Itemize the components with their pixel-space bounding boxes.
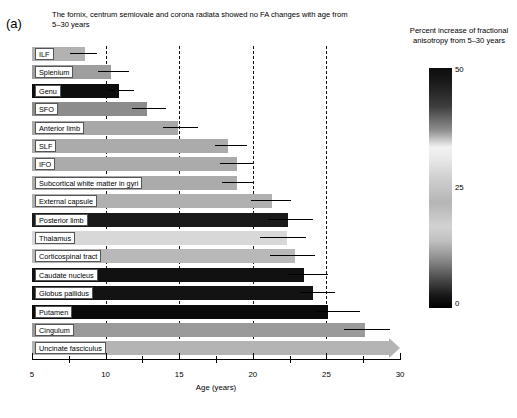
error-bar: [132, 108, 166, 109]
error-bar: [316, 311, 360, 312]
colorbar-title: Percent increase of fractional anisotrop…: [404, 26, 514, 46]
error-bar: [260, 237, 306, 238]
colorbar-label-max: 50: [455, 66, 464, 74]
tract-label: Caudate nucleus: [35, 269, 98, 281]
bar-row: ILF: [32, 47, 400, 61]
tract-label: SLF: [35, 140, 56, 152]
error-bar: [220, 163, 252, 164]
x-tick-label: 15: [175, 370, 184, 379]
x-tick-major: [106, 353, 107, 360]
x-tick-minor: [290, 356, 291, 363]
tract-label: External capsule: [35, 195, 97, 207]
bar-row: SLF: [32, 139, 400, 153]
x-axis-title: Age (years): [32, 383, 400, 392]
bar-row: Globus pallidus: [32, 286, 400, 300]
bar-row: Anterior limb: [32, 121, 400, 135]
bar-row: Cingulum: [32, 323, 400, 337]
bar-row: Corticospinal tract: [32, 249, 400, 263]
error-bar: [251, 200, 291, 201]
tract-label: Globus pallidus: [35, 287, 93, 299]
error-bar: [268, 219, 314, 220]
bar-row: Caudate nucleus: [32, 268, 400, 282]
tract-label: Subcortical white matter in gyri: [35, 177, 142, 189]
x-tick-minor: [363, 356, 364, 363]
bar: [32, 157, 237, 171]
bar-row: Genu: [32, 84, 400, 98]
bar-row: SFO: [32, 102, 400, 116]
x-axis: 51015202530: [32, 359, 400, 360]
tract-label: Corticospinal tract: [35, 250, 101, 262]
error-bar: [70, 53, 96, 54]
tract-label: SFO: [35, 103, 58, 115]
tract-label: Anterior limb: [35, 122, 84, 134]
tract-label: Cingulum: [35, 324, 74, 336]
panel-label: (a): [6, 16, 22, 31]
error-bar: [270, 255, 314, 256]
tract-label: Posterior limb: [35, 214, 88, 226]
tract-label: IFO: [35, 158, 55, 170]
colorbar-label-mid: 25: [455, 184, 464, 192]
bar-row: Subcortical white matter in gyri: [32, 176, 400, 190]
bar: [32, 305, 328, 319]
x-tick-major: [326, 353, 327, 360]
figure-panel-a: (a) The fornix, centrum semiovale and co…: [0, 0, 517, 418]
error-bar: [163, 127, 198, 128]
x-tick-label: 20: [248, 370, 257, 379]
error-bar: [222, 182, 253, 183]
x-tick-major: [32, 353, 33, 360]
x-tick-minor: [142, 356, 143, 363]
error-bar: [98, 71, 129, 72]
x-tick-minor: [69, 356, 70, 363]
tract-label: Genu: [35, 85, 61, 97]
bar: [32, 323, 365, 337]
bar-row: External capsule: [32, 194, 400, 208]
bar-row: Splenium: [32, 65, 400, 79]
colorbar-gradient: [429, 68, 452, 308]
colorbar-label-min: 0: [455, 300, 459, 308]
plot-area: ILFSpleniumGenuSFOAnterior limbSLFIFOSub…: [32, 46, 400, 359]
x-tick-label: 30: [396, 370, 405, 379]
tract-label: Thalamus: [35, 232, 75, 244]
bar: [32, 139, 228, 153]
error-bar: [109, 90, 134, 91]
error-bar: [215, 145, 247, 146]
x-tick-label: 10: [101, 370, 110, 379]
figure-caption: The fornix, centrum semiovale and corona…: [52, 10, 352, 30]
bar-row: Uncinate fasciculus: [32, 341, 400, 355]
x-tick-major: [253, 353, 254, 360]
bar-row: Posterior limb: [32, 213, 400, 227]
x-tick-major: [179, 353, 180, 360]
bar-row: IFO: [32, 157, 400, 171]
error-bar: [288, 274, 328, 275]
x-tick-label: 25: [322, 370, 331, 379]
tract-label: ILF: [35, 48, 54, 60]
bar-row: Putamen: [32, 305, 400, 319]
error-bar: [344, 329, 390, 330]
bar-row: Thalamus: [32, 231, 400, 245]
tract-label: Uncinate fasciculus: [35, 342, 106, 354]
error-bar: [300, 292, 335, 293]
x-tick-label: 5: [30, 370, 34, 379]
x-tick-minor: [216, 356, 217, 363]
x-tick-major: [400, 353, 401, 360]
tract-label: Splenium: [35, 66, 73, 78]
tract-label: Putamen: [35, 306, 72, 318]
